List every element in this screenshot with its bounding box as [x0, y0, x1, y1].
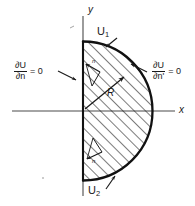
y-axis-label: y [88, 5, 93, 15]
right-bc-fraction: ∂U ∂n' [152, 61, 165, 82]
lower-region-label: U2 [88, 185, 100, 196]
upper-normal-symbol: n [92, 58, 95, 64]
right-boundary-condition: ∂U ∂n' = 0 [152, 61, 181, 82]
upper-region-leader [106, 38, 117, 47]
left-bc-leader [58, 71, 76, 80]
lower-normal-symbol: n [92, 158, 95, 164]
left-bc-equals: = 0 [30, 66, 43, 76]
left-bc-fraction: ∂U ∂n [14, 61, 27, 82]
lower-region-leader [106, 176, 115, 189]
lower-region-symbol: U [88, 184, 96, 196]
upper-region-symbol: U [97, 25, 105, 37]
radius-label: R [107, 88, 114, 98]
left-boundary-condition: ∂U ∂n = 0 [14, 61, 43, 82]
upper-region-label: U1 [97, 26, 109, 37]
right-bc-numerator: ∂U [152, 61, 165, 70]
left-bc-denominator: ∂n [15, 72, 26, 81]
half-disk-domain-figure: y x U1 U2 R n n ∂U ∂n = 0 ∂U ∂n' = 0 [0, 0, 195, 206]
lower-region-subscript: 2 [96, 189, 100, 198]
right-bc-equals: = 0 [168, 66, 181, 76]
x-axis-label: x [179, 105, 184, 115]
upper-region-subscript: 1 [105, 30, 109, 39]
registration-tick [70, 26, 74, 28]
left-bc-numerator: ∂U [14, 61, 27, 70]
right-bc-denominator: ∂n' [152, 72, 165, 81]
